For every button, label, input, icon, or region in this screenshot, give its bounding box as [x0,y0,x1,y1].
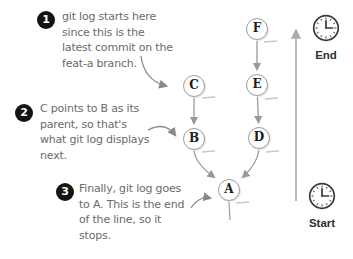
annotation-1-badge: 1 [37,11,55,29]
commit-node-f: F [246,18,268,40]
edge-b-a [194,151,214,177]
annotation-3-text: Finally, git log goes to A. This is the … [79,181,197,243]
end-clock-block: End [309,13,343,62]
clock-icon [311,13,341,43]
annotation-3-badge: 3 [56,183,74,201]
commit-node-a: A [218,179,240,201]
commit-node-e: E [246,74,268,96]
git-log-diagram: 1 git log starts here since this is the … [0,0,353,259]
commit-node-b: B [183,128,205,150]
annotation-2-text: C points to B as its parent, so that's w… [40,101,160,163]
start-label: Start [304,216,340,230]
edge-e-d [258,97,259,122]
edge-a-tail [229,202,230,220]
shade-dashes [202,41,279,203]
annotation-2-badge: 2 [15,104,33,122]
annotation-1-text: git log starts here since this is the la… [62,9,174,71]
clock-icon [307,181,337,211]
start-clock-block: Start [304,181,340,230]
end-label: End [309,48,343,62]
commit-node-d: D [248,127,270,149]
commit-node-c: C [183,75,205,97]
edge-d-a [243,150,259,177]
